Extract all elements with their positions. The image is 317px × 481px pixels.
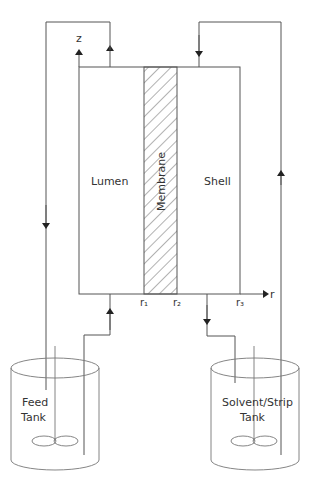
r1-label: r₁ [140,297,148,308]
feed-tank: Feed Tank [11,346,99,470]
membrane-contactor-diagram: z r r₁ r₂ r₃ Lumen Shell Membrane [0,0,317,481]
solvent-tank-label-2: Tank [239,411,266,424]
feed-impeller-blade [54,436,78,446]
lumen-label: Lumen [91,175,128,188]
solvent-impeller-blade [231,436,255,446]
r-axis-label: r [270,288,275,301]
feed-tank-label-2: Tank [20,411,47,424]
feed-tank-label-1: Feed [22,396,48,409]
r2-label: r₂ [173,297,181,308]
r3-label: r₃ [236,297,244,308]
membrane-label: Membrane [155,152,168,211]
solvent-strip-tank: Solvent/Strip Tank [211,346,299,470]
shell-label: Shell [204,175,231,188]
z-axis-label: z [76,32,82,45]
feed-impeller-blade [32,436,56,446]
solvent-impeller-blade [253,436,277,446]
feed-loop-piping [46,22,110,455]
solvent-tank-label-1: Solvent/Strip [222,396,293,409]
z-axis: z [76,32,82,67]
